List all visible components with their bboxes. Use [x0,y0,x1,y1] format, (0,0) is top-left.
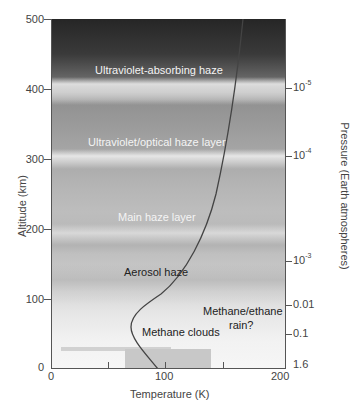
p-label-0.1: 0.1 [293,327,308,339]
y-label-500: 500 [20,13,44,25]
y-label-300: 300 [20,153,44,165]
plot-frame [51,19,286,369]
x-tick-50 [108,362,109,369]
y-label-400: 400 [20,83,44,95]
y-label-100: 100 [20,293,44,305]
p-tick-0.01 [286,305,292,306]
y-tick-200 [44,229,51,230]
y-tick-500 [44,19,51,20]
p-label-1.6: 1.6 [293,358,308,370]
x-tick-150 [223,362,224,369]
p-label-1e-3: 10-3 [293,254,311,266]
p-label-0.01: 0.01 [293,298,314,310]
y-axis-title-pressure: Pressure (Earth atmospheres) [339,111,351,281]
x-label-0: 0 [48,370,54,382]
p-tick-1e-4 [286,156,292,157]
y-tick-100 [44,299,51,300]
p-tick-1e-5 [286,88,292,89]
y-tick-400 [44,89,51,90]
y-tick-300 [44,159,51,160]
p-label-1e-5: 10-5 [293,81,311,93]
x-axis-title-temperature: Temperature (K) [130,388,209,400]
y-label-0: 0 [20,361,44,373]
p-tick-0.1 [286,334,292,335]
p-label-1e-4: 10-4 [293,149,311,161]
y-axis-title-altitude: Altitude (km) [16,166,28,246]
p-tick-1e-3 [286,261,292,262]
x-label-100: 100 [155,370,173,382]
x-tick-100 [165,362,166,369]
x-label-200: 200 [271,370,289,382]
